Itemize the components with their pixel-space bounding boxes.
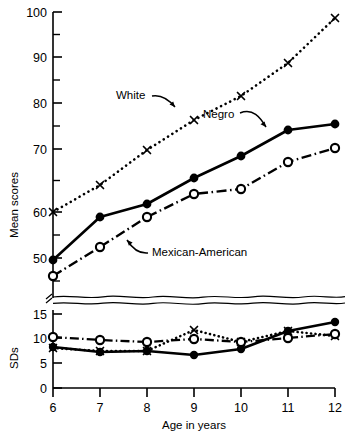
panel-mean-scores: 100 90 80 70 60 50 Mean scores	[8, 6, 339, 298]
ytick-label-5: 5	[40, 357, 47, 371]
ytick-label-50: 50	[33, 252, 47, 266]
ytick-label-60: 60	[33, 206, 47, 220]
y-major-ticks-sds	[53, 314, 62, 388]
chart-svg: 100 90 80 70 60 50 Mean scores	[0, 0, 350, 432]
annotation-label-negro: Negro	[203, 108, 234, 120]
y-minor-ticks-mean	[53, 35, 60, 282]
ytick-label-90: 90	[33, 51, 47, 65]
series-markers-white-mean	[50, 15, 339, 216]
annotation-label-white: White	[116, 89, 145, 101]
x-axis-title: Age in years	[162, 419, 226, 431]
ytick-label-80: 80	[33, 97, 47, 111]
xtick-label-6: 6	[50, 401, 57, 415]
y-axis-title-mean-scores: Mean scores	[8, 172, 20, 238]
xtick-label-10: 10	[234, 401, 248, 415]
series-line-white-mean	[53, 18, 335, 212]
ytick-label-100: 100	[26, 6, 47, 20]
ytick-label-10: 10	[33, 332, 47, 346]
xtick-label-11: 11	[282, 401, 295, 415]
ytick-label-15: 15	[33, 308, 47, 322]
annotation-label-mexican-american: Mexican-American	[152, 246, 247, 258]
xtick-label-12: 12	[328, 401, 342, 415]
ytick-label-70: 70	[33, 143, 47, 157]
xtick-label-9: 9	[191, 401, 198, 415]
y-major-ticks-mean	[53, 12, 62, 258]
x-major-ticks	[53, 388, 335, 397]
figure-container: 100 90 80 70 60 50 Mean scores	[0, 0, 350, 432]
ytick-label-0: 0	[40, 382, 47, 396]
axis-break-squiggle	[46, 294, 345, 304]
xtick-label-7: 7	[97, 401, 104, 415]
series-markers-mexican-american-mean	[49, 144, 339, 280]
annotation-arrow-mexican-american-head	[127, 240, 133, 246]
xtick-label-8: 8	[144, 401, 151, 415]
y-axis-title-sds: SDs	[8, 347, 20, 369]
panel-sds: 15 10 5 0 SDs 6 7 8 9 10 11 12 Age in ye	[8, 308, 342, 431]
